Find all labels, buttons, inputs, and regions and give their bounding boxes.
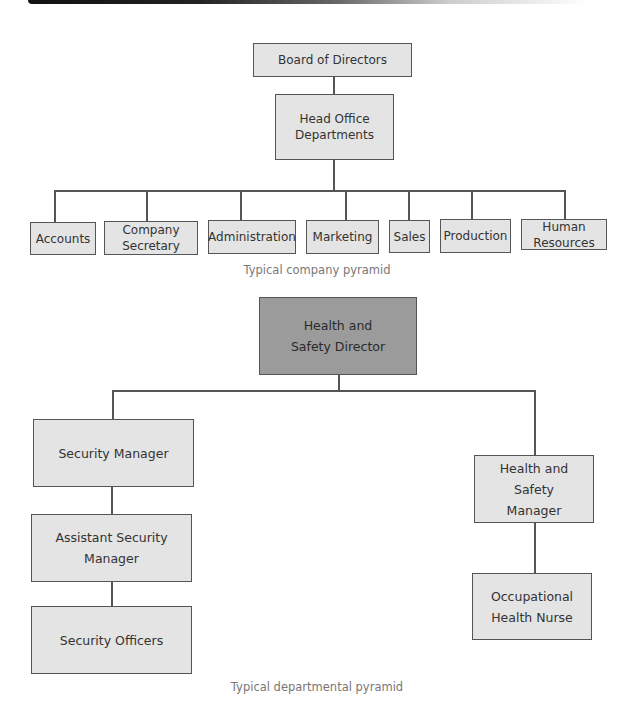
box-label: Assistant Security Manager (35, 527, 188, 569)
occupational-health-nurse-box: Occupational Health Nurse (472, 573, 592, 640)
company-pyramid-caption: Typical company pyramid (200, 263, 434, 277)
departmental-pyramid-caption: Typical departmental pyramid (180, 680, 454, 694)
connector (240, 190, 242, 221)
connector (54, 190, 56, 223)
connector (146, 190, 148, 222)
box-label: Company Secretary (108, 222, 194, 254)
box-label: Sales (394, 229, 426, 245)
box-label: Security Officers (60, 630, 163, 651)
box-label: Board of Directors (278, 52, 387, 68)
department-box-marketing: Marketing (306, 220, 379, 254)
box-label: Accounts (36, 231, 91, 247)
connector (471, 190, 473, 220)
department-box-accounts: Accounts (30, 222, 96, 255)
box-label: Human Resources (525, 219, 603, 251)
board-of-directors-box: Board of Directors (253, 43, 412, 77)
security-manager-box: Security Manager (33, 419, 194, 487)
box-label: Health and Safety Manager (485, 458, 583, 521)
box-label: Head Office Departments (279, 111, 390, 143)
header-rule (28, 0, 588, 4)
connector (345, 190, 347, 221)
box-label: Production (444, 228, 508, 244)
connector (333, 77, 335, 94)
connector (534, 523, 536, 573)
department-box-company-secretary: Company Secretary (104, 221, 198, 255)
department-box-sales: Sales (389, 220, 430, 253)
box-label: Health and Safety Director (290, 315, 386, 357)
box-label: Administration (208, 229, 296, 245)
assistant-security-manager-box: Assistant Security Manager (31, 514, 192, 582)
connector (112, 390, 114, 420)
connector (333, 160, 335, 190)
connector (534, 390, 536, 456)
security-officers-box: Security Officers (31, 606, 192, 674)
box-label: Marketing (313, 229, 373, 245)
connector-bar (112, 390, 535, 392)
box-label: Occupational Health Nurse (479, 586, 585, 628)
department-box-human-resources: Human Resources (521, 219, 607, 250)
connector (111, 582, 113, 607)
connector-bar (54, 190, 566, 192)
connector (338, 375, 340, 391)
department-box-administration: Administration (208, 220, 296, 254)
health-safety-manager-box: Health and Safety Manager (474, 455, 594, 523)
box-label: Security Manager (58, 443, 168, 464)
head-office-box: Head Office Departments (275, 94, 394, 160)
department-box-production: Production (440, 219, 511, 253)
connector (408, 190, 410, 221)
connector (564, 190, 566, 219)
director-box: Health and Safety Director (259, 297, 417, 375)
connector (111, 487, 113, 514)
